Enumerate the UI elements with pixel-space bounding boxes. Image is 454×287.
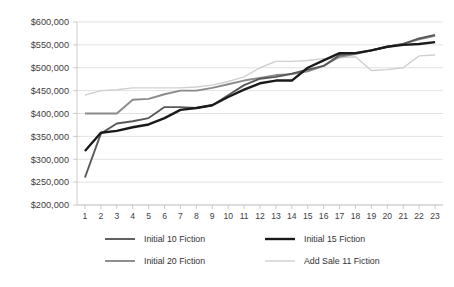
x-axis-tick-label: 2: [98, 211, 103, 221]
x-axis-tick-label: 10: [223, 211, 233, 221]
x-axis-tick-label: 15: [303, 211, 313, 221]
x-axis-tick-label: 21: [398, 211, 408, 221]
x-axis-tick-label: 18: [351, 211, 361, 221]
legend-item[interactable]: Initial 15 Fiction: [265, 234, 365, 244]
legend-item-label: Initial 15 Fiction: [304, 234, 365, 244]
legend-item-label: Initial 10 Fiction: [144, 234, 205, 244]
x-axis-tick-label: 14: [287, 211, 297, 221]
y-axis-tick-label: $350,000: [31, 132, 69, 142]
series-line: [85, 42, 435, 151]
y-axis-tick-label: $400,000: [31, 109, 69, 119]
x-axis-tick-label: 4: [130, 211, 135, 221]
x-axis-tick-label: 16: [319, 211, 329, 221]
x-axis-tick-label: 1: [83, 211, 88, 221]
x-axis-tick-label: 20: [383, 211, 393, 221]
x-axis-tick-label: 5: [146, 211, 151, 221]
line-chart: $600,000$550,000$500,000$450,000$400,000…: [0, 0, 454, 287]
series-line: [85, 35, 435, 178]
x-axis-tick-label: 19: [367, 211, 377, 221]
legend-item[interactable]: Initial 10 Fiction: [105, 234, 205, 244]
x-axis-tick-label: 7: [178, 211, 183, 221]
x-axis-tick-label: 11: [240, 211, 249, 221]
x-axis-tick-label: 22: [414, 211, 424, 221]
y-axis-tick-label: $450,000: [31, 86, 69, 96]
y-axis-tick-label: $250,000: [31, 177, 69, 187]
legend-item-label: Initial 20 Fiction: [144, 256, 205, 266]
x-axis-tick-label: 12: [255, 211, 265, 221]
y-axis-tick-label: $200,000: [31, 200, 69, 210]
legend-item-label: Add Sale 11 Fiction: [304, 256, 380, 266]
series-line: [85, 55, 435, 95]
chart-legend: Initial 10 FictionInitial 15 FictionInit…: [105, 234, 380, 266]
x-axis-tick-label: 3: [114, 211, 119, 221]
chart-container: $600,000$550,000$500,000$450,000$400,000…: [0, 0, 454, 287]
x-axis-tick-label: 9: [210, 211, 215, 221]
series-lines: [85, 35, 435, 178]
y-axis-tick-label: $600,000: [31, 17, 69, 27]
y-axis-tick-label: $500,000: [31, 63, 69, 73]
x-axis: 1234567891011121314151617181920212223: [77, 205, 443, 221]
x-axis-tick-label: 8: [194, 211, 199, 221]
y-axis: $600,000$550,000$500,000$450,000$400,000…: [31, 17, 77, 210]
x-axis-tick-label: 17: [335, 211, 345, 221]
x-axis-tick-label: 23: [430, 211, 440, 221]
y-axis-tick-label: $550,000: [31, 40, 69, 50]
x-axis-tick-label: 6: [162, 211, 167, 221]
x-axis-tick-label: 13: [271, 211, 281, 221]
gridlines: [77, 22, 443, 205]
y-axis-tick-label: $300,000: [31, 155, 69, 165]
legend-item[interactable]: Add Sale 11 Fiction: [265, 256, 380, 266]
legend-item[interactable]: Initial 20 Fiction: [105, 256, 205, 266]
